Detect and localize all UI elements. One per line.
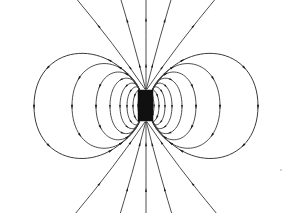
field-loop-group-left [34, 53, 141, 158]
field-arrowhead [126, 187, 128, 191]
field-arrowhead [169, 78, 173, 81]
field-arrowhead [152, 142, 154, 146]
field-arrowhead [138, 142, 140, 146]
field-arrowhead [108, 149, 112, 152]
field-arrowhead [257, 105, 259, 110]
field-arrowhead [219, 105, 221, 110]
field-arrowhead [33, 105, 35, 110]
field-arrowhead [71, 105, 73, 110]
field-arrowhead [151, 64, 153, 68]
field-line-loop [110, 78, 140, 134]
field-arrowhead [153, 104, 155, 108]
field-line-loop [153, 83, 173, 129]
field-arrowhead [158, 105, 160, 109]
field-arrowhead [163, 19, 165, 23]
field-arrowhead [190, 84, 193, 89]
field-arrowhead [95, 105, 97, 110]
field-arrowhead [99, 84, 102, 89]
field-arrowhead [134, 94, 136, 98]
field-arrowhead [156, 115, 158, 119]
field-arrowhead [179, 149, 183, 152]
field-arrowhead [132, 105, 134, 109]
field-arrowhead [145, 142, 147, 146]
field-arrowhead [134, 115, 136, 119]
field-arrowhead [164, 105, 166, 109]
field-arrowhead [156, 94, 158, 98]
stray-speck [280, 169, 282, 171]
field-arrowhead [121, 132, 125, 134]
field-arrowhead [109, 105, 111, 109]
field-line-canvas [0, 0, 294, 213]
field-arrowhead [145, 18, 147, 22]
field-line-radial [0, 0, 145, 89]
magnetic-field-diagram [0, 0, 294, 213]
field-line-radial [0, 122, 145, 213]
field-arrowhead [127, 19, 129, 23]
field-line-radial [147, 0, 294, 89]
field-arrowhead [139, 64, 141, 68]
field-arrowhead [119, 78, 123, 81]
radial-line-group-bottom [0, 122, 294, 213]
bar-magnet [138, 90, 153, 121]
field-arrowhead [191, 125, 194, 130]
field-arrowhead [119, 105, 121, 109]
field-arrowhead [164, 187, 166, 191]
field-arrowhead [171, 105, 173, 109]
field-line-loop [120, 83, 140, 129]
field-arrowhead [195, 105, 197, 110]
field-arrowhead [145, 64, 147, 68]
field-arrowhead [168, 132, 172, 134]
field-arrowhead [126, 105, 128, 109]
field-arrowhead [180, 59, 184, 62]
field-arrowhead [181, 105, 183, 109]
field-line-loop [153, 78, 183, 134]
field-arrowhead [145, 188, 147, 192]
field-line-radial [147, 122, 294, 213]
field-arrowhead [107, 59, 111, 62]
field-loop-group-right [151, 53, 258, 158]
field-arrowhead [98, 125, 101, 130]
